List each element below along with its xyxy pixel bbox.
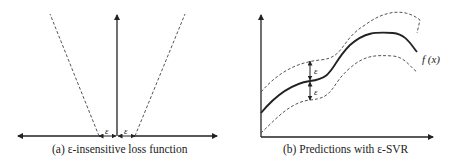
epsilon-upper-label: ε: [314, 66, 318, 76]
panel-a-loss-function: ε ε: [18, 14, 217, 136]
epsilon-right-label: ε: [124, 126, 128, 136]
epsilon-left-label: ε: [105, 126, 109, 136]
epsilon-lower-label: ε: [314, 87, 318, 97]
prediction-curve: [261, 33, 417, 113]
panel-b-caption: (b) Predictions with ε-SVR: [283, 143, 408, 155]
figure-canvas: ε ε ε ε f (x): [0, 0, 455, 161]
upper-epsilon-tube: [261, 12, 420, 92]
panel-b-svr-predictions: ε ε f (x): [261, 12, 440, 137]
lower-epsilon-tube: [261, 56, 417, 133]
loss-left-dashed: [50, 14, 99, 136]
function-label: f (x): [422, 53, 440, 66]
panel-a-caption: (a) ε-insensitive loss function: [52, 143, 187, 155]
loss-right-dashed: [135, 14, 185, 136]
